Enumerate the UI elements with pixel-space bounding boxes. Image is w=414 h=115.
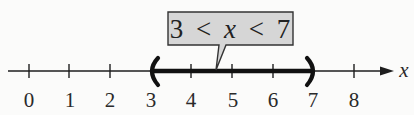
tick-label-0: 0 (24, 88, 35, 112)
tick-labels: 0 1 2 3 4 5 6 7 8 (24, 88, 360, 112)
tick-label-8: 8 (349, 88, 360, 112)
axis-variable-label: x (398, 58, 409, 82)
tick-label-5: 5 (228, 88, 239, 112)
tick-label-6: 6 (268, 88, 279, 112)
callout: 3 < x < 7 (168, 12, 293, 70)
number-line-diagram: 3 < x < 7 0 1 2 3 4 5 6 7 8 x (0, 0, 414, 115)
axis-arrow-icon (380, 67, 394, 76)
tick-label-3: 3 (146, 88, 157, 112)
tick-label-1: 1 (65, 88, 76, 112)
tick-label-4: 4 (186, 88, 197, 112)
tick-label-7: 7 (308, 88, 319, 112)
tick-label-2: 2 (105, 88, 116, 112)
